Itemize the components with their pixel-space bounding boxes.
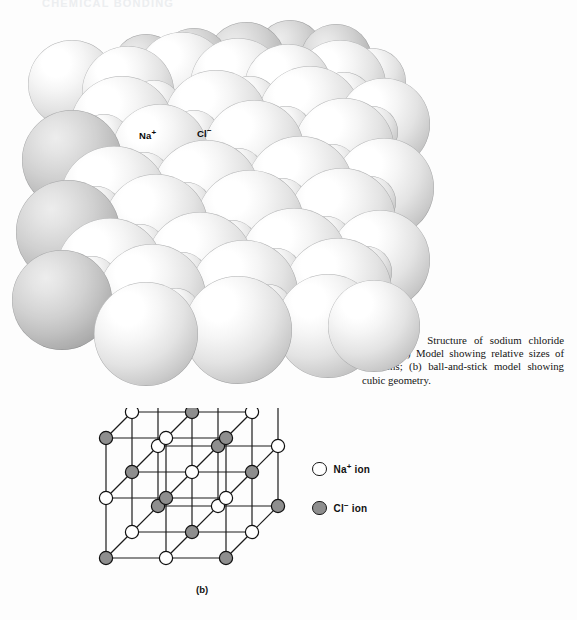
sodium-node: [245, 408, 258, 419]
ion-sphere: [184, 276, 292, 384]
chloride-node: [185, 525, 198, 538]
sodium-node: [271, 439, 284, 452]
chloride-node: [99, 431, 112, 444]
chloride-ion-label: Cl−: [197, 128, 212, 139]
open-circle-icon: [312, 462, 327, 477]
panel-b-ball-and-stick-model: [70, 408, 300, 584]
chloride-node: [99, 551, 112, 564]
sphere-canvas: [8, 18, 360, 336]
legend-chloride-label: Cl− ion: [334, 503, 368, 514]
legend: Na+ ion Cl− ion: [312, 461, 452, 539]
panel-b-letter: (b): [196, 584, 208, 595]
legend-item-sodium: Na+ ion: [312, 461, 452, 477]
chloride-node: [159, 491, 172, 504]
sodium-node: [125, 408, 138, 419]
sodium-ion-label: Na+: [139, 130, 156, 141]
chloride-node: [219, 551, 232, 564]
sodium-node: [159, 431, 172, 444]
sodium-node: [99, 491, 112, 504]
sodium-node: [159, 551, 172, 564]
filled-circle-icon: [312, 501, 327, 516]
chloride-node: [245, 465, 258, 478]
sodium-node: [245, 525, 258, 538]
running-head: CHEMICAL BONDING: [42, 0, 292, 7]
sodium-node: [219, 491, 232, 504]
lattice-diagram: [70, 408, 300, 584]
chloride-node: [125, 465, 138, 478]
chloride-node: [185, 408, 198, 419]
legend-item-chloride: Cl− ion: [312, 500, 452, 516]
legend-sodium-label: Na+ ion: [334, 464, 371, 475]
chloride-node: [271, 499, 284, 512]
sodium-node: [185, 465, 198, 478]
chloride-node: [219, 431, 232, 444]
ion-sphere: [94, 282, 198, 386]
sodium-node: [125, 525, 138, 538]
ion-sphere: [328, 280, 420, 372]
panel-a-space-filling-model: Na+ Cl−: [8, 18, 360, 336]
